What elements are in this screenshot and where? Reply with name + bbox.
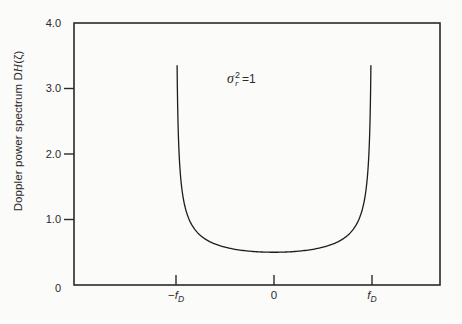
y-tick-label: 2.0: [46, 148, 61, 160]
plot-canvas: 01.02.03.04.0−fD0fD: [0, 0, 462, 324]
y-tick-label: 3.0: [46, 82, 61, 94]
x-tick-label: 0: [271, 289, 277, 301]
sigma-sup-sub: 2 r: [235, 71, 240, 87]
x-tick-label: −fD: [168, 289, 184, 304]
doppler-spectrum-figure: 01.02.03.04.0−fD0fD Doppler power spectr…: [0, 0, 462, 324]
sigma-annotation: σ 2 r =1: [227, 71, 256, 87]
annotation-equals-one: =1: [242, 72, 256, 86]
y-axis-label-text: Doppler power spectrum: [12, 81, 24, 212]
y-tick-label: 1.0: [46, 213, 61, 225]
y-axis-ticks: 01.02.03.04.0: [46, 17, 74, 295]
y-axis-label-symbol: DH(ζ): [12, 51, 24, 81]
y-tick-label: 4.0: [46, 17, 61, 29]
y-tick-label: 0: [55, 282, 61, 294]
x-tick-label: fD: [367, 289, 376, 304]
sigma-symbol: σ: [227, 71, 234, 87]
plot-box: [74, 23, 440, 285]
spectrum-curve: [177, 66, 371, 253]
y-axis-label: Doppler power spectrum DH(ζ): [12, 31, 28, 231]
x-axis-ticks: −fD0fD: [168, 275, 377, 304]
